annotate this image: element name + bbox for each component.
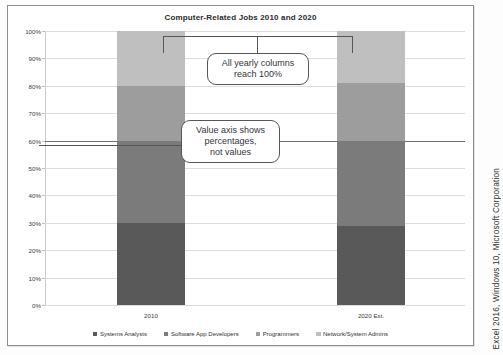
- gridline-0: [45, 305, 465, 306]
- chart-legend[interactable]: Systems AnalystsSoftware App DevelopersP…: [8, 331, 473, 337]
- value-axis-label-50: 50%: [29, 165, 41, 172]
- column-segment-1[interactable]: [337, 141, 405, 226]
- tick-30: [42, 223, 45, 224]
- legend-swatch-2: [256, 332, 261, 337]
- callout-100-percent-line-2: reach 100%: [234, 69, 282, 79]
- tick-10: [42, 278, 45, 279]
- legend-entry-1[interactable]: Software App Developers: [164, 331, 239, 337]
- column-2010[interactable]: 2010: [117, 31, 185, 305]
- callout-value-axis[interactable]: Value axis shows percentages, not values: [181, 120, 280, 163]
- legend-swatch-1: [164, 332, 169, 337]
- legend-label-1: Software App Developers: [171, 331, 239, 337]
- callout-value-axis-line-3: not values: [210, 147, 251, 157]
- category-label-0: 2010: [144, 312, 158, 319]
- tick-90: [42, 58, 45, 59]
- value-axis-label-10: 10%: [29, 274, 41, 281]
- column-segment-3[interactable]: [117, 31, 185, 86]
- source-credit: Excel 2016, Windows 10, Microsoft Corpor…: [492, 168, 501, 349]
- value-axis-label-60: 60%: [29, 137, 41, 144]
- legend-entry-3[interactable]: Network/System Admins: [316, 331, 388, 337]
- callout-value-axis-line-2: percentages,: [204, 136, 256, 146]
- column-segment-2[interactable]: [337, 83, 405, 141]
- callout-100-percent-bracket-left: [163, 36, 164, 53]
- callout-100-percent-bracket-right: [352, 36, 353, 53]
- tick-80: [42, 86, 45, 87]
- figure-container: Computer-Related Jobs 2010 and 2020 100%…: [0, 0, 503, 355]
- excel-chart-object[interactable]: Computer-Related Jobs 2010 and 2020 100%…: [7, 5, 474, 346]
- column-segment-0[interactable]: [117, 223, 185, 305]
- tick-70: [42, 113, 45, 114]
- legend-swatch-0: [93, 332, 98, 337]
- value-axis-label-20: 20%: [29, 247, 41, 254]
- tick-60: [42, 141, 45, 142]
- tick-0: [42, 305, 45, 306]
- column-segment-1[interactable]: [117, 141, 185, 223]
- value-axis-label-40: 40%: [29, 192, 41, 199]
- legend-label-2: Programmers: [263, 331, 299, 337]
- column-segment-2[interactable]: [117, 86, 185, 141]
- value-axis-label-30: 30%: [29, 219, 41, 226]
- tick-40: [42, 195, 45, 196]
- legend-swatch-3: [316, 332, 321, 337]
- value-axis-label-0: 0%: [32, 302, 41, 309]
- tick-100: [42, 31, 45, 32]
- tick-50: [42, 168, 45, 169]
- column-segment-0[interactable]: [337, 226, 405, 305]
- column-2020-est[interactable]: 2020 Est.: [337, 31, 405, 305]
- legend-label-0: Systems Analysts: [100, 331, 147, 337]
- legend-label-3: Network/System Admins: [323, 331, 388, 337]
- callout-value-axis-leader: [39, 145, 182, 146]
- value-axis-label-90: 90%: [29, 55, 41, 62]
- callout-100-percent[interactable]: All yearly columns reach 100%: [207, 53, 309, 85]
- value-axis-label-80: 80%: [29, 82, 41, 89]
- legend-entry-0[interactable]: Systems Analysts: [93, 331, 147, 337]
- callout-100-percent-line-1: All yearly columns: [222, 58, 295, 68]
- chart-title: Computer-Related Jobs 2010 and 2020: [8, 13, 473, 22]
- legend-entry-2[interactable]: Programmers: [256, 331, 299, 337]
- callout-value-axis-line-1: Value axis shows: [196, 125, 265, 135]
- category-label-1: 2020 Est.: [358, 312, 384, 319]
- value-axis-label-70: 70%: [29, 110, 41, 117]
- value-axis-label-100: 100%: [25, 28, 41, 35]
- tick-20: [42, 250, 45, 251]
- column-segment-3[interactable]: [337, 31, 405, 83]
